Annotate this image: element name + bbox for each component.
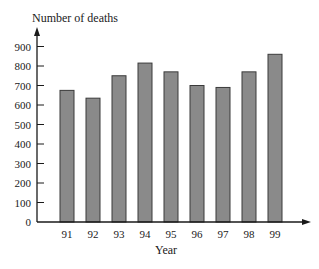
y-tick-label: 400 [15, 138, 32, 150]
x-tick-label: 95 [166, 228, 178, 240]
bar-94 [138, 63, 152, 222]
y-tick-label: 100 [15, 197, 32, 209]
x-axis-ticks: 919293949596979899 [62, 228, 282, 240]
y-tick-label: 800 [15, 60, 32, 72]
bar-97 [216, 87, 230, 222]
y-axis-arrow-icon [34, 27, 40, 36]
x-tick-label: 99 [270, 228, 282, 240]
bar-93 [112, 76, 126, 222]
bar-chart: Number of deaths Year 010020030040050060… [0, 0, 319, 269]
y-tick-label: 600 [15, 99, 32, 111]
x-tick-label: 91 [62, 228, 73, 240]
y-tick-label: 0 [26, 216, 32, 228]
y-tick-label: 500 [15, 119, 32, 131]
y-tick-label: 700 [15, 80, 32, 92]
bar-91 [60, 90, 74, 222]
y-axis-label: Number of deaths [32, 11, 118, 25]
bar-96 [190, 86, 204, 223]
y-tick-label: 200 [15, 177, 32, 189]
bar-92 [86, 98, 100, 222]
x-tick-label: 94 [140, 228, 152, 240]
bars-group [60, 54, 282, 222]
x-tick-label: 92 [88, 228, 99, 240]
x-axis-arrow-icon [302, 219, 311, 225]
bar-99 [268, 54, 282, 222]
bar-95 [164, 72, 178, 222]
y-tick-label: 900 [15, 41, 32, 53]
y-tick-label: 300 [15, 158, 32, 170]
x-tick-label: 98 [244, 228, 256, 240]
x-tick-label: 93 [114, 228, 126, 240]
x-tick-label: 97 [218, 228, 230, 240]
x-tick-label: 96 [192, 228, 204, 240]
y-axis-ticks: 0100200300400500600700800900 [15, 41, 45, 229]
bar-98 [242, 72, 256, 222]
x-axis-label: Year [155, 243, 177, 257]
